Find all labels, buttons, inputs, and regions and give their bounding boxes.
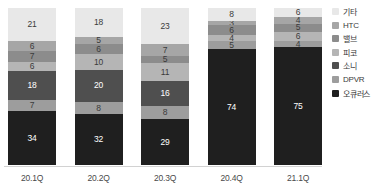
bar-segment-value: 5 <box>96 37 101 45</box>
bar-segment-value: 6 <box>30 42 35 51</box>
legend-item-label: HTC <box>343 21 359 30</box>
bar-segment-value: 5 <box>163 56 168 64</box>
x-axis-line <box>4 166 322 167</box>
bar-segment: 6 <box>8 62 56 72</box>
x-axis-label: 20.3Q <box>141 173 189 183</box>
bar-stack: 6456475 <box>274 8 322 165</box>
bar-segment-value: 8 <box>163 108 168 117</box>
bar-segment-value: 6 <box>296 8 301 17</box>
bar-groups: 2167618734185610208322375111682983645746… <box>8 8 322 165</box>
legend-item[interactable]: 피코 <box>332 47 391 58</box>
bar-segment: 6 <box>274 8 322 17</box>
bar-segment: 8 <box>75 102 123 115</box>
bar-segment: 29 <box>141 119 189 165</box>
bar-segment: 21 <box>8 8 56 41</box>
bar-segment-value: 5 <box>296 24 301 32</box>
x-axis-label: 20.2Q <box>75 173 123 183</box>
bar-segment-value: 7 <box>163 46 168 55</box>
bar-segment: 8 <box>208 8 256 21</box>
bar-segment-value: 32 <box>94 135 103 144</box>
bar-segment-value: 29 <box>160 138 169 147</box>
bar-segment-value: 6 <box>229 26 234 35</box>
bar-segment-value: 6 <box>296 32 301 41</box>
bar-segment: 5 <box>141 56 189 64</box>
bar-segment-value: 6 <box>30 62 35 71</box>
bar-segment: 6 <box>8 41 56 51</box>
x-axis-label: 20.4Q <box>208 173 256 183</box>
x-axis-label: 20.1Q <box>8 173 56 183</box>
bar-segment-value: 10 <box>94 58 103 67</box>
legend-item-label: 기타 <box>343 6 357 17</box>
bar-segment: 6 <box>208 25 256 34</box>
legend-item-label: 피코 <box>343 47 357 58</box>
bar-stack: 23751116829 <box>141 8 189 165</box>
bar-segment: 6 <box>75 44 123 54</box>
legend-item[interactable]: 기타 <box>332 6 391 17</box>
bar-segment: 34 <box>8 111 56 165</box>
bar-segment: 5 <box>208 41 256 49</box>
legend-swatch-icon <box>332 22 339 29</box>
bar-segment-value: 6 <box>96 45 101 54</box>
bar-segment-value: 23 <box>160 22 169 31</box>
x-axis-label: 21.1Q <box>274 173 322 183</box>
bar-segment: 20 <box>75 70 123 102</box>
bar-segment: 6 <box>274 32 322 41</box>
legend-swatch-icon <box>332 62 339 69</box>
bar-segment: 7 <box>141 44 189 55</box>
bar-segment-value: 8 <box>229 10 234 19</box>
bar-segment-value: 8 <box>96 104 101 113</box>
bar-segment: 75 <box>274 47 322 165</box>
bar-segment-value: 75 <box>293 102 302 111</box>
bar-segment: 11 <box>141 63 189 80</box>
bar-group: 18561020832 <box>75 8 123 165</box>
bar-segment: 18 <box>8 71 56 100</box>
stacked-bar-chart: 2167618734185610208322375111682983645746… <box>0 0 391 195</box>
bar-stack: 18561020832 <box>75 8 123 165</box>
plot-area: 2167618734185610208322375111682983645746… <box>0 0 330 195</box>
legend-item-label: DPVR <box>343 75 364 84</box>
bar-segment: 23 <box>141 8 189 44</box>
legend-item[interactable]: 오큐러스 <box>332 88 391 99</box>
bar-segment: 16 <box>141 81 189 106</box>
bar-group: 6456475 <box>274 8 322 165</box>
x-axis-labels: 20.1Q20.2Q20.3Q20.4Q21.1Q <box>8 170 322 186</box>
bar-segment: 10 <box>75 54 123 70</box>
bar-stack: 8364574 <box>208 8 256 165</box>
bar-segment: 8 <box>141 106 189 119</box>
bar-segment-value: 11 <box>161 68 169 77</box>
legend-item-label: 밸브 <box>343 33 357 44</box>
bar-segment-value: 7 <box>30 52 35 61</box>
bar-segment-value: 7 <box>30 101 35 110</box>
legend-item[interactable]: 밸브 <box>332 33 391 44</box>
legend-swatch-icon <box>332 8 339 15</box>
legend-item[interactable]: HTC <box>332 20 391 31</box>
legend-item-label: 소니 <box>343 60 357 71</box>
legend-swatch-icon <box>332 90 339 97</box>
bar-segment-value: 5 <box>229 41 234 49</box>
bar-segment-value: 16 <box>160 89 169 98</box>
legend-item[interactable]: DPVR <box>332 74 391 85</box>
bar-segment: 7 <box>8 100 56 111</box>
bar-segment: 18 <box>75 8 123 37</box>
legend-swatch-icon <box>332 35 339 42</box>
bar-group: 23751116829 <box>141 8 189 165</box>
bar-segment-value: 18 <box>94 18 103 27</box>
bar-segment-value: 74 <box>227 103 236 112</box>
legend-item[interactable]: 소니 <box>332 60 391 71</box>
legend-swatch-icon <box>332 49 339 56</box>
bar-segment-value: 20 <box>94 81 103 90</box>
bar-segment-value: 21 <box>27 20 36 29</box>
bar-segment: 32 <box>75 114 123 165</box>
bar-segment-value: 18 <box>27 81 36 90</box>
bar-segment-value: 34 <box>27 134 36 143</box>
bar-segment: 5 <box>75 37 123 45</box>
bar-group: 2167618734 <box>8 8 56 165</box>
bar-stack: 2167618734 <box>8 8 56 165</box>
bar-group: 8364574 <box>208 8 256 165</box>
bar-segment: 5 <box>274 24 322 32</box>
legend-swatch-icon <box>332 76 339 83</box>
chart-legend: 기타HTC밸브피코소니DPVR오큐러스 <box>332 6 391 99</box>
legend-item-label: 오큐러스 <box>343 88 370 99</box>
bar-segment: 7 <box>8 51 56 62</box>
bar-segment: 74 <box>208 49 256 165</box>
